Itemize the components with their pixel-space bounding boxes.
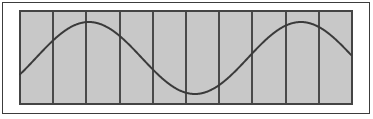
sine-wave-figure (0, 0, 373, 119)
figure-container (0, 0, 373, 119)
